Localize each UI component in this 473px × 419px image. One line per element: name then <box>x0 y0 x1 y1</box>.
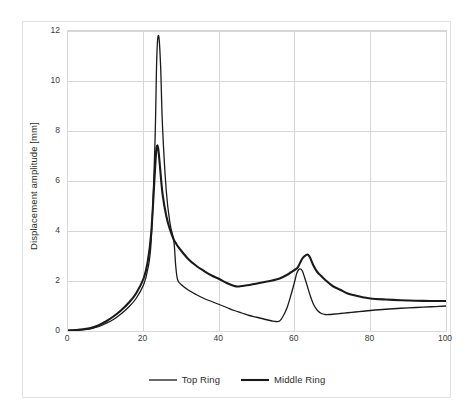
y-tick-label: 6 <box>38 175 60 185</box>
legend-item-label: Top Ring <box>182 374 220 385</box>
chart-figure: Displacement amplitude [mm] 024681012 02… <box>0 0 473 419</box>
legend-line-icon <box>240 375 270 385</box>
y-tick-label: 8 <box>38 125 60 135</box>
series-line-0 <box>68 36 446 331</box>
x-tick-label: 60 <box>279 333 309 343</box>
x-tick-label: 0 <box>52 333 82 343</box>
x-tick-label: 100 <box>430 333 460 343</box>
y-gridlines <box>68 31 446 331</box>
y-tick-label: 12 <box>38 25 60 35</box>
y-tick-label: 4 <box>38 225 60 235</box>
chart-legend: Top RingMiddle Ring <box>0 374 473 385</box>
plot-area <box>67 30 447 332</box>
legend-item-0[interactable]: Top Ring <box>148 374 220 385</box>
y-tick-label: 10 <box>38 75 60 85</box>
x-tick-label: 20 <box>128 333 158 343</box>
legend-line-icon <box>148 375 178 385</box>
series-line-1 <box>68 145 446 330</box>
legend-item-label: Middle Ring <box>274 374 325 385</box>
y-tick-label: 2 <box>38 275 60 285</box>
series-lines <box>68 36 446 331</box>
legend-item-1[interactable]: Middle Ring <box>240 374 325 385</box>
x-tick-label: 80 <box>354 333 384 343</box>
plot-canvas <box>68 31 446 331</box>
x-tick-label: 40 <box>203 333 233 343</box>
